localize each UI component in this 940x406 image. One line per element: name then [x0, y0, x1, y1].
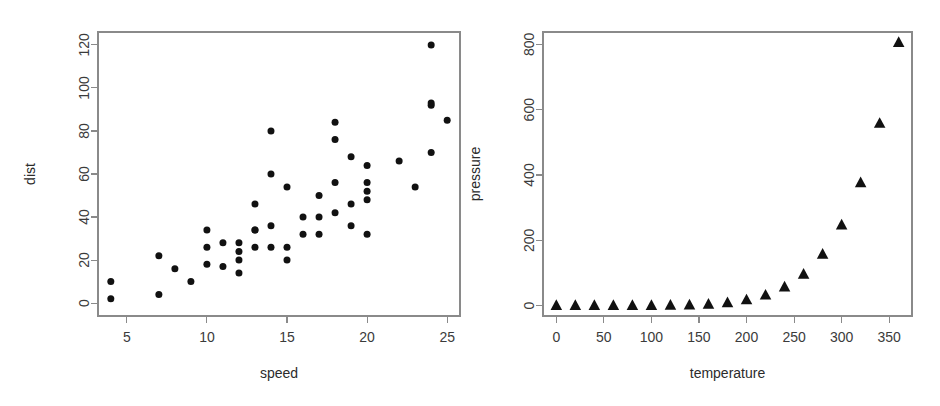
- data-point: [107, 278, 114, 285]
- data-point: [836, 219, 848, 230]
- data-point: [364, 188, 371, 195]
- data-point: [428, 100, 435, 107]
- data-point: [219, 263, 226, 270]
- data-point: [219, 239, 226, 246]
- data-point: [396, 158, 403, 165]
- data-point: [267, 222, 274, 229]
- data-point: [332, 136, 339, 143]
- data-point: [608, 299, 620, 310]
- data-point: [332, 209, 339, 216]
- x-tick-label: 5: [123, 329, 131, 345]
- data-point: [428, 41, 435, 48]
- x-tick-label: 15: [279, 329, 295, 345]
- y-tick-label: 120: [76, 33, 92, 57]
- x-tick-label: 10: [199, 329, 215, 345]
- data-point: [332, 119, 339, 126]
- data-point: [348, 201, 355, 208]
- scatter-plot-cars: 510152025020406080100120speeddist: [0, 0, 470, 406]
- data-point: [187, 278, 194, 285]
- data-point: [316, 214, 323, 221]
- x-tick-label: 100: [640, 329, 664, 345]
- data-point: [267, 171, 274, 178]
- data-point: [551, 299, 563, 310]
- data-point: [316, 192, 323, 199]
- data-point: [203, 244, 210, 251]
- data-point: [760, 289, 772, 300]
- data-point: [364, 231, 371, 238]
- data-point: [703, 298, 715, 309]
- data-point: [646, 299, 658, 310]
- plot-box-frame: [98, 32, 460, 316]
- x-axis-title: temperature: [690, 365, 766, 381]
- y-tick-label: 100: [76, 76, 92, 100]
- data-point: [348, 153, 355, 160]
- data-point: [855, 177, 867, 188]
- data-point-group: [551, 36, 905, 310]
- chart-panel-speed-dist: 510152025020406080100120speeddist: [0, 0, 470, 406]
- data-point: [300, 231, 307, 238]
- x-tick-label: 50: [596, 329, 612, 345]
- data-point: [284, 257, 291, 264]
- data-point: [235, 239, 242, 246]
- x-tick-label: 150: [687, 329, 711, 345]
- data-point: [364, 162, 371, 169]
- y-tick-label: 40: [76, 209, 92, 225]
- y-axis-title: dist: [22, 163, 38, 185]
- figure-container: 510152025020406080100120speeddist 050100…: [0, 0, 940, 406]
- data-point: [203, 261, 210, 268]
- x-tick-label: 25: [439, 329, 455, 345]
- data-point: [798, 268, 810, 279]
- x-tick-label: 20: [359, 329, 375, 345]
- scatter-plot-pressure: 0501001502002503003500200400600800temper…: [470, 0, 940, 406]
- data-point: [155, 291, 162, 298]
- data-point: [428, 149, 435, 156]
- data-point: [893, 36, 905, 47]
- plot-box-frame: [543, 32, 912, 316]
- data-point: [107, 295, 114, 302]
- data-point: [251, 244, 258, 251]
- data-point: [665, 299, 677, 310]
- x-tick-label: 200: [735, 329, 759, 345]
- y-tick-label: 400: [521, 163, 537, 187]
- data-point: [235, 248, 242, 255]
- data-point: [444, 117, 451, 124]
- data-point: [627, 299, 639, 310]
- y-tick-label: 0: [521, 301, 537, 309]
- data-point: [267, 127, 274, 134]
- y-tick-label: 200: [521, 228, 537, 252]
- x-tick-label: 350: [877, 329, 901, 345]
- data-point: [155, 252, 162, 259]
- data-point: [171, 265, 178, 272]
- data-point: [684, 299, 696, 310]
- data-point: [364, 179, 371, 186]
- y-tick-label: 0: [76, 299, 92, 307]
- data-point: [589, 299, 601, 310]
- data-point: [284, 183, 291, 190]
- y-tick-label: 60: [76, 166, 92, 182]
- data-point: [267, 244, 274, 251]
- x-axis-title: speed: [260, 365, 298, 381]
- x-tick-label: 0: [552, 329, 560, 345]
- data-point: [817, 248, 829, 259]
- y-tick-label: 80: [76, 123, 92, 139]
- y-tick-label: 600: [521, 98, 537, 122]
- data-point: [251, 226, 258, 233]
- data-point: [779, 281, 791, 292]
- data-point: [251, 201, 258, 208]
- data-point: [570, 299, 582, 310]
- data-point: [332, 179, 339, 186]
- data-point: [235, 257, 242, 264]
- data-point: [874, 117, 886, 128]
- x-tick-label: 250: [782, 329, 806, 345]
- data-point: [300, 214, 307, 221]
- y-tick-label: 20: [76, 252, 92, 268]
- data-point: [722, 296, 734, 307]
- chart-panel-temperature-pressure: 0501001502002503003500200400600800temper…: [470, 0, 940, 406]
- data-point: [284, 244, 291, 251]
- data-point: [348, 222, 355, 229]
- data-point: [203, 226, 210, 233]
- data-point: [741, 294, 753, 305]
- data-point: [412, 183, 419, 190]
- data-point-group: [107, 41, 450, 302]
- data-point: [235, 269, 242, 276]
